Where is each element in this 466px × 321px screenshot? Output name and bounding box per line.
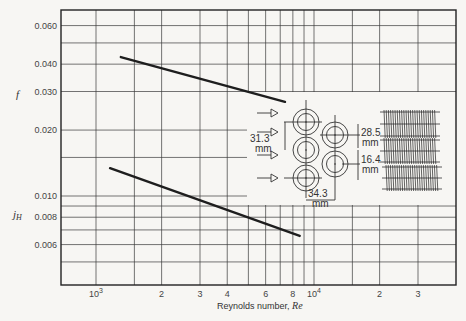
x-tick-label: 8: [290, 289, 295, 299]
chart-svg: 0.0600.0400.0300.0200.0100.0080.006 1032…: [0, 0, 466, 321]
dim-unit-longitudinal: mm: [312, 198, 329, 209]
y-tick-label: 0.030: [34, 87, 57, 97]
x-tick-label: 4: [225, 289, 230, 299]
dim-unit-pitch-b: mm: [362, 164, 379, 175]
y-tick-label: 0.008: [34, 212, 57, 222]
x-tick-label: 2: [159, 289, 164, 299]
y-axis-label-f: f: [16, 88, 21, 100]
x-tick-label: 103: [89, 287, 103, 299]
x-axis-label: Reynolds number, Re: [217, 300, 303, 311]
x-tick-labels: 1032346810423: [89, 287, 420, 299]
series-line-f: [121, 57, 285, 102]
x-tick-label: 104: [307, 287, 321, 299]
y-tick-labels: 0.0600.0400.0300.0200.0100.0080.006: [34, 21, 57, 250]
y-tick-label: 0.060: [34, 21, 57, 31]
dim-unit-transverse: mm: [255, 143, 272, 154]
y-tick-label: 0.020: [34, 125, 57, 135]
dim-unit-pitch-a: mm: [362, 137, 379, 148]
y-tick-label: 0.010: [34, 191, 57, 201]
y-axis-label-jh: jH: [11, 208, 23, 222]
x-tick-label: 6: [263, 289, 268, 299]
x-tick-label: 2: [377, 289, 382, 299]
y-tick-label: 0.040: [34, 59, 57, 69]
x-tick-label: 3: [416, 289, 421, 299]
x-tick-label: 3: [198, 289, 203, 299]
y-tick-label: 0.006: [34, 240, 57, 250]
